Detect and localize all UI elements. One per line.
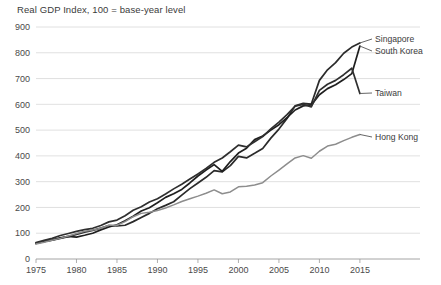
y-tick-label: 800 bbox=[15, 48, 30, 58]
series-label-leader-taiwan bbox=[360, 93, 372, 94]
y-tick-label: 900 bbox=[15, 22, 30, 32]
series-label-leader-hong-kong bbox=[360, 134, 372, 137]
x-tick-label: 1990 bbox=[147, 265, 167, 275]
series-label-taiwan: Taiwan bbox=[375, 88, 402, 98]
x-tick-label: 2010 bbox=[309, 265, 329, 275]
x-tick-label: 1995 bbox=[188, 265, 208, 275]
y-tick-label: 100 bbox=[15, 228, 30, 238]
chart-container: Real GDP Index, 100 = base-year level 01… bbox=[0, 0, 441, 285]
series-line-hong-kong bbox=[36, 134, 360, 244]
y-tick-label: 0 bbox=[25, 254, 30, 264]
series-line-taiwan bbox=[36, 68, 360, 242]
x-tick-label: 2015 bbox=[350, 265, 370, 275]
x-axis bbox=[36, 259, 420, 263]
series-label-leader-singapore bbox=[360, 39, 372, 43]
y-tick-label: 300 bbox=[15, 177, 30, 187]
x-tick-label: 2005 bbox=[269, 265, 289, 275]
series-label-singapore: Singapore bbox=[375, 34, 414, 44]
line-chart-plot: 0100200300400500600700800900 19751980198… bbox=[0, 0, 441, 285]
gridlines bbox=[36, 27, 420, 233]
y-tick-label: 200 bbox=[15, 203, 30, 213]
series-labels: SingaporeSouth KoreaTaiwanHong Kong bbox=[360, 34, 423, 142]
series-line-singapore bbox=[36, 43, 360, 243]
y-axis-tick-labels: 0100200300400500600700800900 bbox=[15, 22, 30, 264]
series-label-hong-kong: Hong Kong bbox=[375, 132, 418, 142]
y-tick-label: 600 bbox=[15, 100, 30, 110]
x-tick-label: 1985 bbox=[107, 265, 127, 275]
series-label-south-korea: South Korea bbox=[375, 46, 423, 56]
x-tick-label: 2000 bbox=[228, 265, 248, 275]
x-tick-label: 1980 bbox=[66, 265, 86, 275]
series-label-leader-south-korea bbox=[360, 46, 372, 51]
x-tick-label: 1975 bbox=[26, 265, 46, 275]
y-tick-label: 700 bbox=[15, 74, 30, 84]
series-line-south-korea bbox=[36, 46, 360, 243]
x-axis-tick-labels: 197519801985199019952000200520102015 bbox=[26, 265, 370, 275]
data-series bbox=[36, 43, 360, 244]
y-tick-label: 500 bbox=[15, 125, 30, 135]
y-tick-label: 400 bbox=[15, 151, 30, 161]
